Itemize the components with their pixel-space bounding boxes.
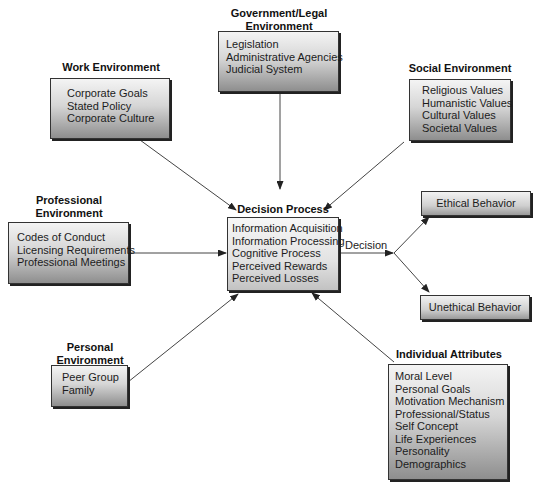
- ethical-behavior-label: Ethical Behavior: [436, 197, 516, 210]
- list-item: Peer Group: [62, 371, 127, 384]
- list-item: Personal Goals: [395, 383, 507, 396]
- individual-attributes-title: Individual Attributes: [387, 348, 511, 361]
- ethical-behavior-box: Ethical Behavior: [421, 191, 531, 216]
- list-item: Licensing Requirements: [17, 244, 128, 257]
- arrow-individual-to-decision: [312, 293, 394, 362]
- decision-label: Decision: [345, 239, 387, 251]
- government-environment-box: Legislation Administrative Agencies Judi…: [218, 31, 339, 92]
- list-item: Judicial System: [226, 63, 338, 76]
- list-item: Family: [62, 384, 127, 397]
- list-item: Demographics: [395, 458, 507, 471]
- individual-attributes-box: Moral Level Personal Goals Motivation Me…: [388, 364, 508, 480]
- arrow-to-unethical: [394, 253, 429, 292]
- list-item: Perceived Losses: [232, 272, 338, 285]
- list-item: Perceived Rewards: [232, 260, 338, 273]
- list-item: Information Acquisition: [232, 222, 338, 235]
- list-item: Life Experiences: [395, 433, 507, 446]
- list-item: Information Processing: [232, 235, 338, 248]
- decision-process-box: Information Acquisition Information Proc…: [227, 217, 339, 291]
- arrow-to-ethical: [394, 217, 429, 253]
- list-item: Professional/Status: [395, 408, 507, 421]
- work-environment-box: Corporate Goals Stated Policy Corporate …: [50, 78, 170, 139]
- professional-environment-title: Professional Environment: [8, 194, 130, 220]
- list-item: Professional Meetings: [17, 256, 128, 269]
- list-item: Stated Policy: [67, 100, 169, 113]
- social-environment-box: Religious Values Humanistic Values Cultu…: [409, 79, 511, 141]
- list-item: Societal Values: [422, 122, 510, 135]
- arrow-personal-to-decision: [128, 294, 238, 382]
- list-item: Humanistic Values: [422, 97, 510, 110]
- decision-process-title: Decision Process: [222, 203, 344, 216]
- unethical-behavior-box: Unethical Behavior: [420, 295, 530, 320]
- arrow-social-to-decision: [324, 142, 404, 210]
- list-item: Cognitive Process: [232, 247, 338, 260]
- unethical-behavior-label: Unethical Behavior: [429, 301, 521, 314]
- list-item: Religious Values: [422, 84, 510, 97]
- social-environment-title: Social Environment: [400, 62, 520, 75]
- list-item: Self Concept: [395, 420, 507, 433]
- list-item: Motivation Mechanism: [395, 395, 507, 408]
- list-item: Personality: [395, 445, 507, 458]
- professional-environment-box: Codes of Conduct Licensing Requirements …: [8, 222, 129, 284]
- personal-environment-box: Peer Group Family: [51, 365, 128, 407]
- list-item: Cultural Values: [422, 109, 510, 122]
- government-environment-title: Government/Legal Environment: [218, 7, 340, 33]
- work-environment-title: Work Environment: [50, 61, 172, 74]
- personal-environment-title: Personal Environment: [40, 341, 140, 367]
- list-item: Moral Level: [395, 370, 507, 383]
- list-item: Corporate Goals: [67, 87, 169, 100]
- list-item: Administrative Agencies: [226, 51, 338, 64]
- list-item: Corporate Culture: [67, 112, 169, 125]
- list-item: Legislation: [226, 38, 338, 51]
- list-item: Codes of Conduct: [17, 231, 128, 244]
- arrow-work-to-decision: [140, 140, 236, 210]
